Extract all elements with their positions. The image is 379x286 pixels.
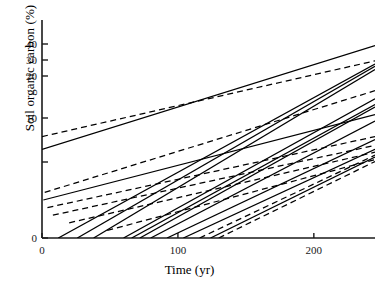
series-line: [45, 91, 375, 193]
x-axis-label: Time (yr): [0, 262, 379, 278]
series-group: [42, 46, 375, 238]
series-line: [107, 160, 375, 231]
series-line: [151, 121, 375, 238]
series-line: [94, 70, 375, 238]
series-line: [58, 64, 375, 238]
series-line: [43, 115, 375, 200]
series-line: [42, 61, 375, 137]
x-tick-label: 100: [170, 244, 187, 256]
series-line: [200, 155, 375, 238]
series-line: [167, 140, 375, 238]
x-tick-label: 0: [39, 244, 45, 256]
x-tick-label: 200: [306, 244, 323, 256]
y-axis-label: Soil organic carbon (%): [22, 0, 38, 158]
series-line: [211, 157, 375, 238]
y-tick-label: 0: [32, 232, 38, 244]
series-line: [42, 46, 375, 150]
series-line: [124, 99, 375, 238]
chart-figure: 0100200010203040 Soil organic carbon (%)…: [0, 0, 379, 286]
chart-canvas: 0100200010203040: [0, 0, 379, 286]
